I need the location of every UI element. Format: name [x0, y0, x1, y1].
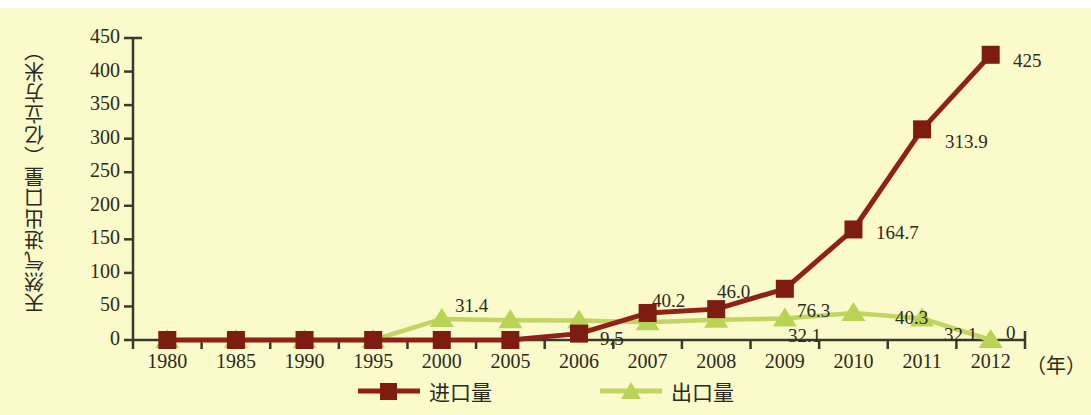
data-label-import: 425: [1013, 50, 1042, 72]
marker-import: [227, 331, 245, 349]
data-label-import: 40.2: [652, 290, 685, 312]
x-axis-unit: （年）: [1026, 350, 1086, 379]
y-tick-label: 400: [58, 59, 120, 82]
marker-import: [158, 331, 176, 349]
data-label-import: 46.0: [717, 281, 750, 303]
marker-import: [364, 331, 382, 349]
natural-gas-import-export-line-chart: 天然气进出口量（亿立方米） 进口量 出口量 050100150200250300…: [0, 0, 1091, 415]
series-line-import: [167, 55, 990, 340]
marker-import: [844, 220, 862, 238]
y-tick-label: 450: [58, 25, 120, 48]
data-label-export: 0: [1006, 322, 1016, 344]
y-tick-label: 100: [58, 260, 120, 283]
data-label-export: 32.1: [788, 325, 821, 347]
legend-swatch-import: [358, 380, 420, 402]
legend-label-export: 出口量: [671, 376, 734, 406]
y-tick-label: 50: [58, 293, 120, 316]
y-tick-label: 200: [58, 193, 120, 216]
y-tick-label: 250: [58, 159, 120, 182]
marker-import: [982, 46, 1000, 64]
data-label-export: 32.1: [944, 324, 977, 346]
y-tick-label: 150: [58, 226, 120, 249]
marker-import: [433, 331, 451, 349]
data-label-import: 313.9: [945, 131, 988, 153]
data-label-import: 76.3: [797, 300, 830, 322]
legend-label-import: 进口量: [429, 376, 492, 406]
marker-import: [776, 280, 794, 298]
legend-swatch-export: [600, 380, 662, 402]
marker-import: [570, 325, 588, 343]
data-label-import: 164.7: [876, 222, 919, 244]
marker-import: [296, 331, 314, 349]
marker-import: [913, 120, 931, 138]
legend-item-import[interactable]: 进口量: [358, 376, 492, 406]
data-label-export: 40.3: [895, 307, 928, 329]
data-label-export: 31.4: [455, 295, 488, 317]
y-tick-label: 350: [58, 92, 120, 115]
data-label-import: 9.5: [600, 328, 624, 350]
marker-import: [501, 331, 519, 349]
legend-item-export[interactable]: 出口量: [600, 376, 734, 406]
x-tick-label: 2012: [946, 350, 1036, 373]
chart-legend: 进口量 出口量: [0, 373, 1091, 409]
y-tick-label: 0: [58, 327, 120, 350]
y-tick-label: 300: [58, 126, 120, 149]
